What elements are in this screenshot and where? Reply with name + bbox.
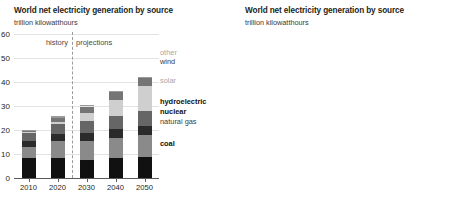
x-axis-tick-label: 2050 (136, 183, 153, 192)
x-axis-tick-label: 2020 (49, 183, 66, 192)
bar-segment-hydroelectric (22, 133, 36, 141)
y-axis-tick-label: 60 (1, 30, 10, 39)
bar-segment-wind (138, 78, 152, 86)
bar-segment-coal (109, 158, 123, 178)
bar-2020 (51, 116, 65, 178)
legend-label-solar: solar (160, 77, 176, 84)
legend-label-coal: coal (160, 140, 175, 147)
bar-segment-hydroelectric (80, 121, 94, 133)
right-chart-subtitle: trillion kilowatthours (245, 18, 309, 27)
bar-segment-coal (51, 158, 65, 178)
bar-segment-coal (80, 160, 94, 178)
bar-segment-other (109, 91, 123, 92)
bar-segment-other (22, 130, 36, 132)
x-axis-tick-label: 2040 (107, 183, 124, 192)
bar-segment-natural-gas (109, 138, 123, 159)
bar-segment-solar (80, 113, 94, 121)
right-chart-title: World net electricity generation by sour… (245, 6, 404, 15)
history-projections-divider (72, 32, 73, 178)
bar-segment-nuclear (80, 133, 94, 141)
bar-segment-wind (80, 107, 94, 114)
bar-segment-solar (138, 86, 152, 111)
bar-2010 (22, 130, 36, 178)
legend-label-nuclear: nuclear (160, 108, 186, 115)
bar-segment-solar (51, 122, 65, 124)
legend-label-natural_gas: natural gas (160, 118, 197, 125)
y-axis-tick-label: 20 (1, 126, 10, 135)
legend-label-hydroelectric: hydroelectric (160, 98, 206, 105)
bar-segment-natural-gas (51, 141, 65, 158)
bar-segment-nuclear (109, 129, 123, 138)
left-chart-subtitle: trillion kilowatthours (14, 18, 78, 27)
bar-segment-natural-gas (138, 135, 152, 157)
x-axis-tick (58, 179, 59, 182)
bar-segment-wind (109, 92, 123, 100)
y-axis-tick-label: 0 (6, 174, 10, 183)
left-plot-area: 010203040506020102020203020402050history… (14, 34, 159, 178)
bar-segment-wind (22, 131, 36, 132)
y-axis-tick-label: 40 (1, 78, 10, 87)
x-axis-tick (116, 179, 117, 182)
bar-2050 (138, 76, 152, 178)
x-axis-tick-label: 2010 (20, 183, 37, 192)
bar-segment-nuclear (51, 134, 65, 141)
bar-2040 (109, 91, 123, 178)
x-axis-tick-label: 2030 (78, 183, 95, 192)
gridline (14, 34, 159, 35)
right-chart-panel: World net electricity generation by sour… (231, 0, 462, 213)
projections-label: projections (76, 38, 112, 47)
x-axis-tick (29, 179, 30, 182)
bar-segment-solar (109, 100, 123, 116)
bar-segment-wind (51, 118, 65, 122)
history-label: history (46, 38, 68, 47)
bar-segment-nuclear (138, 126, 152, 135)
bar-segment-coal (138, 157, 152, 178)
bar-segment-hydroelectric (51, 124, 65, 134)
x-axis-tick (145, 179, 146, 182)
x-axis-tick (87, 179, 88, 182)
left-chart-panel: World net electricity generation by sour… (0, 0, 231, 213)
bar-segment-coal (22, 158, 36, 178)
gridline (14, 58, 159, 59)
left-chart-title: World net electricity generation by sour… (14, 6, 173, 15)
bar-segment-other (80, 105, 94, 106)
y-axis-tick-label: 10 (1, 150, 10, 159)
legend-label-other: other (160, 49, 177, 56)
bar-segment-other (51, 116, 65, 117)
bar-2030 (80, 105, 94, 178)
dual-chart-figure: World net electricity generation by sour… (0, 0, 462, 213)
bar-segment-nuclear (22, 141, 36, 147)
y-axis-tick-label: 50 (1, 54, 10, 63)
bar-segment-hydroelectric (138, 111, 152, 126)
bar-segment-hydroelectric (109, 116, 123, 129)
legend-label-wind: wind (160, 58, 175, 65)
bar-segment-other (138, 77, 152, 78)
bar-segment-natural-gas (22, 147, 36, 158)
bar-segment-natural-gas (80, 141, 94, 160)
y-axis-tick-label: 30 (1, 102, 10, 111)
